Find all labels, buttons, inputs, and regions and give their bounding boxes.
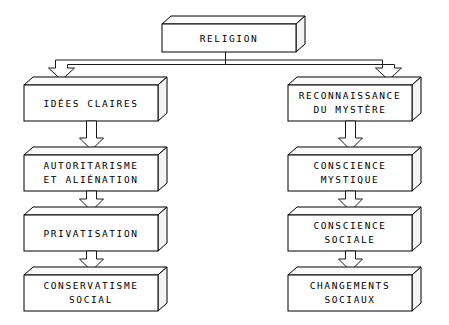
conscience-mystique-box-side-face xyxy=(412,147,421,191)
node-conservatisme-social[interactable]: CONSERVATISME SOCIAL xyxy=(24,267,167,311)
node-label-religion: RELIGION xyxy=(200,33,259,44)
node-label-privatisation: PRIVATISATION xyxy=(43,228,138,239)
node-idees-claires[interactable]: IDÉES CLAIRES xyxy=(24,77,167,121)
down-arrow xyxy=(80,121,104,150)
religion-box-top-face xyxy=(162,16,305,24)
node-label-changements-sociaux-line1: CHANGEMENTS xyxy=(310,280,391,291)
node-label-conscience-mystique-line2: MYSTIQUE xyxy=(321,174,380,185)
conservatisme-box-side-face xyxy=(158,267,167,311)
connector-reconnaissance-to-conscience-mystique xyxy=(339,121,363,150)
conscience-sociale-box-top-face xyxy=(288,207,421,215)
flowchart-diagram: RELIGION IDÉES CLAIRES AUTORITARISME ET … xyxy=(0,0,449,325)
conservatisme-box-top-face xyxy=(24,267,167,275)
node-label-conscience-sociale-line1: CONSCIENCE xyxy=(313,220,386,231)
node-autoritarisme[interactable]: AUTORITARISME ET ALIÉNATION xyxy=(24,147,167,191)
privatisation-box-top-face xyxy=(24,207,167,215)
node-changements-sociaux[interactable]: CHANGEMENTS SOCIAUX xyxy=(288,267,421,311)
node-label-conscience-sociale-line2: SOCIALE xyxy=(324,234,375,245)
node-label-changements-sociaux-line2: SOCIAUX xyxy=(324,294,375,305)
reconnaissance-box-side-face xyxy=(412,77,421,121)
reconnaissance-box-top-face xyxy=(288,77,421,85)
node-privatisation[interactable]: PRIVATISATION xyxy=(24,207,167,251)
node-label-conservatisme-line2: SOCIAL xyxy=(69,294,113,305)
connector-idees-to-autoritarisme xyxy=(80,121,104,150)
changements-sociaux-box-side-face xyxy=(412,267,421,311)
node-conscience-sociale[interactable]: CONSCIENCE SOCIALE xyxy=(288,207,421,251)
node-label-conservatisme-line1: CONSERVATISME xyxy=(43,280,138,291)
changements-sociaux-box-top-face xyxy=(288,267,421,275)
privatisation-box-side-face xyxy=(158,207,167,251)
autoritarisme-box-side-face xyxy=(158,147,167,191)
node-label-idees-claires: IDÉES CLAIRES xyxy=(43,98,138,109)
node-label-reconnaissance-line2: DU MYSTÈRE xyxy=(313,104,386,115)
conscience-mystique-box-top-face xyxy=(288,147,421,155)
idees-claires-box-top-face xyxy=(24,77,167,85)
conscience-sociale-box-side-face xyxy=(412,207,421,251)
node-conscience-mystique[interactable]: CONSCIENCE MYSTIQUE xyxy=(288,147,421,191)
node-religion[interactable]: RELIGION xyxy=(162,16,305,52)
idees-claires-box-side-face xyxy=(158,77,167,121)
node-label-reconnaissance-line1: RECONNAISSANCE xyxy=(299,90,401,101)
diagram-canvas: RELIGION IDÉES CLAIRES AUTORITARISME ET … xyxy=(0,0,449,325)
down-arrow xyxy=(339,121,363,150)
branch-connector-from-religion xyxy=(49,52,402,80)
autoritarisme-box-top-face xyxy=(24,147,167,155)
branch-arrow-right xyxy=(226,52,402,80)
node-reconnaissance[interactable]: RECONNAISSANCE DU MYSTÈRE xyxy=(288,77,421,121)
node-label-autoritarisme-line1: AUTORITARISME xyxy=(43,160,138,171)
branch-arrow-left xyxy=(49,52,226,80)
node-label-autoritarisme-line2: ET ALIÉNATION xyxy=(43,174,138,185)
node-label-conscience-mystique-line1: CONSCIENCE xyxy=(313,160,386,171)
